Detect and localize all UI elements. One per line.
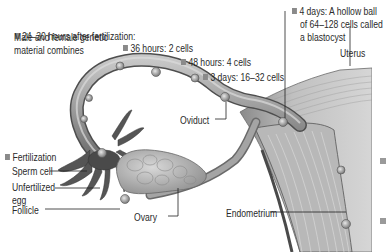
- stage-label-24-30-hours-line3: material combines: [14, 44, 84, 56]
- label-oviduct: Oviduct: [180, 114, 209, 126]
- bullet-icon: [5, 154, 10, 160]
- bullet-icon: [380, 158, 386, 164]
- label-sperm-cell: Sperm cell: [12, 165, 53, 177]
- bullet-icon: [203, 74, 208, 80]
- stage-label-24-30-hours-line2: Male and female genetic: [14, 31, 108, 43]
- label-ovary: Ovary: [134, 211, 157, 223]
- label-endometrium: Endometrium: [226, 207, 277, 219]
- bullet-icon: [123, 45, 128, 51]
- uterus-illustration: [240, 60, 385, 252]
- stage-label-fertilization: Fertilization: [5, 151, 56, 163]
- label-unfertilized-egg: Unfertilized: [12, 181, 55, 193]
- stage-label-48-hours: 48 hours: 4 cells: [181, 56, 251, 68]
- bullet-icon: [181, 59, 186, 65]
- ovary-illustration: [117, 150, 207, 194]
- bullet-icon: [380, 218, 386, 224]
- label-uterus: Uterus: [340, 47, 365, 59]
- bullet-icon: [292, 8, 297, 14]
- stage-label-4-days-line2: of 64–128 cells called: [300, 18, 383, 30]
- stage-label-36-hours: 36 hours: 2 cells: [123, 42, 193, 54]
- stage-label-4-days: 4 days: A hollow ball: [292, 5, 377, 17]
- label-follicle: Follicle: [12, 204, 39, 216]
- stage-label-3-days: 3 days: 16–32 cells: [203, 71, 284, 83]
- stage-label-4-days-line3: a blastocyst: [300, 31, 345, 43]
